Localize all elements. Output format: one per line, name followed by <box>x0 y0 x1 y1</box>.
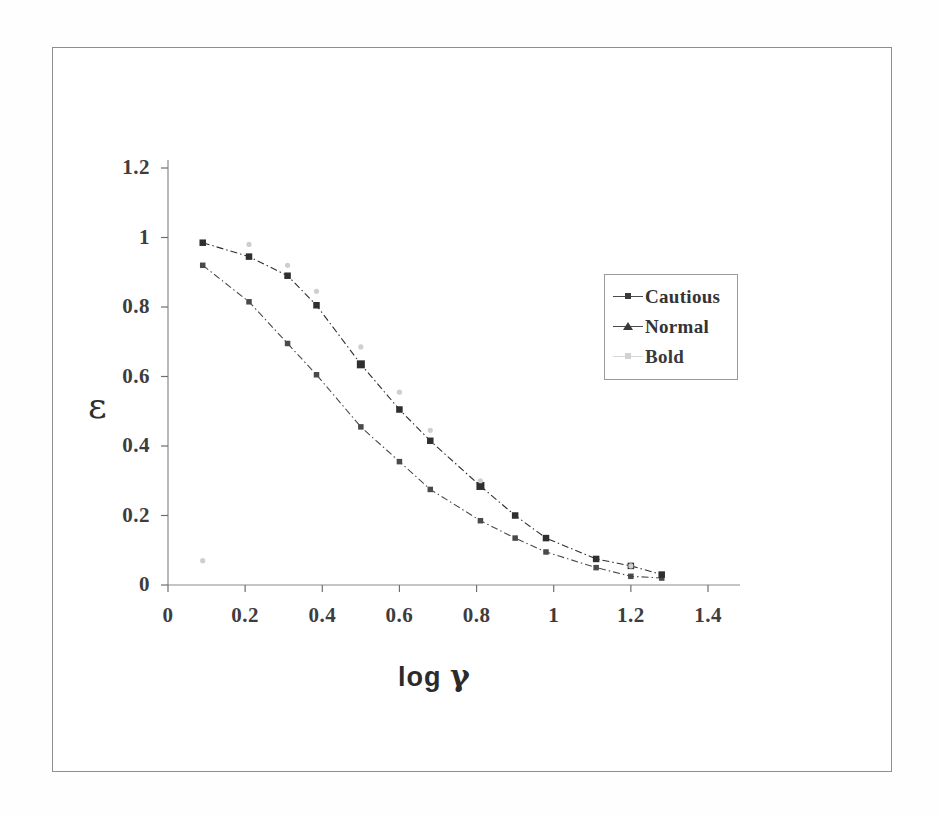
legend-marker-normal-icon <box>611 320 645 334</box>
x-axis-label-text: log <box>398 662 442 692</box>
x-axis-label-symbol: γ <box>450 658 471 693</box>
x-tick-label: 0 <box>138 603 198 628</box>
x-tick-label: 0.4 <box>292 603 352 628</box>
legend-entry-normal: Normal <box>611 312 737 342</box>
x-tick-label: 1.2 <box>601 603 661 628</box>
legend-label-normal: Normal <box>645 316 709 338</box>
y-tick-label: 1.2 <box>94 155 150 180</box>
y-tick-label: 0 <box>94 572 150 597</box>
x-tick-label: 0.6 <box>369 603 429 628</box>
y-tick-label: 0.8 <box>94 294 150 319</box>
legend-marker-cautious-icon <box>611 290 645 304</box>
x-tick-label: 0.2 <box>215 603 275 628</box>
x-tick-label: 1 <box>524 603 584 628</box>
legend-marker-bold-icon <box>611 350 645 364</box>
x-tick-label: 0.8 <box>447 603 507 628</box>
chart-legend: Cautious Normal Bold <box>604 274 738 380</box>
legend-label-bold: Bold <box>645 346 684 368</box>
legend-entry-bold: Bold <box>611 342 737 372</box>
y-tick-label: 0.2 <box>94 503 150 528</box>
legend-entry-cautious: Cautious <box>611 282 737 312</box>
legend-label-cautious: Cautious <box>645 286 720 308</box>
x-axis-label: log γ <box>398 658 471 693</box>
y-tick-label: 0.4 <box>94 433 150 458</box>
figure-border <box>52 47 892 772</box>
y-axis-label: ε <box>88 385 107 426</box>
x-tick-label: 1.4 <box>678 603 738 628</box>
scanned-figure-page: 00.20.40.60.811.2 00.20.40.60.811.21.4 ε… <box>0 0 940 816</box>
y-tick-label: 1 <box>94 225 150 250</box>
